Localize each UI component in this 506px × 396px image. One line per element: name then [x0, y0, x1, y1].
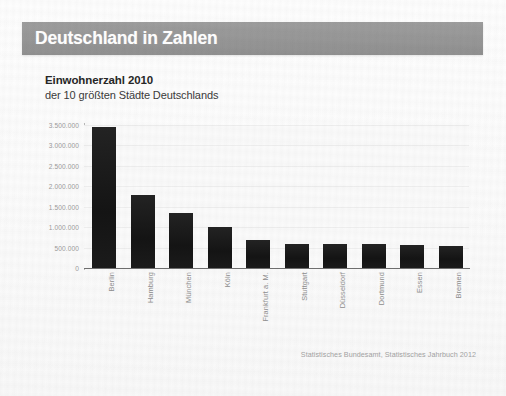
x-axis-tick-label: Dortmund [377, 272, 386, 305]
x-axis-tick-label: Köln [223, 272, 232, 287]
x-axis-tick-label: Bremen [454, 272, 463, 298]
bar [362, 244, 386, 268]
y-axis-tick-label: 3.500.000 [49, 122, 79, 129]
y-axis-tick-label: 2.500.000 [49, 162, 79, 169]
page-title: Deutschland in Zahlen [35, 28, 218, 49]
y-axis-tick-label: 3.000.000 [49, 142, 79, 149]
bar [169, 213, 193, 268]
y-axis-tick-label: 1.500.000 [49, 203, 79, 210]
chart-subtitle: der 10 größten Städte Deutschlands [45, 89, 218, 101]
gridline [84, 125, 469, 126]
x-axis-tick-label: Berlin [107, 272, 116, 292]
slide-page: Deutschland in Zahlen Einwohnerzahl 2010… [0, 0, 506, 396]
chart-title: Einwohnerzahl 2010 [45, 74, 153, 86]
x-axis-tick-label: München [184, 272, 193, 303]
bar [131, 195, 155, 268]
x-axis-tick-label: Frankfurt a. M. [261, 272, 270, 322]
bar [400, 245, 424, 268]
gridline [84, 166, 469, 167]
x-axis-line [84, 268, 470, 269]
y-axis-tick-label: 1.000.000 [49, 224, 79, 231]
x-axis-tick-label: Stuttgart [300, 272, 309, 301]
x-axis-tick-label: Düsseldorf [338, 272, 347, 308]
y-axis-tick-label: 500.000 [54, 244, 79, 251]
bar [439, 246, 463, 268]
gridline [84, 145, 469, 146]
bar [246, 240, 270, 268]
bar [323, 244, 347, 268]
source-note: Statistisches Bundesamt, Statistisches J… [301, 350, 476, 359]
bar [92, 127, 116, 268]
bar [285, 244, 309, 269]
x-axis-tick-label: Hamburg [146, 272, 155, 303]
header-band: Deutschland in Zahlen [22, 22, 483, 55]
bar-chart: 3.500.0003.000.0002.500.0002.000.0001.50… [22, 112, 477, 282]
bar [208, 227, 232, 268]
gridline [84, 186, 469, 187]
x-axis-tick-label: Essen [415, 272, 424, 293]
y-axis-tick-label: 0 [75, 265, 79, 272]
plot-area: 3.500.0003.000.0002.500.0002.000.0001.50… [84, 125, 469, 268]
y-axis-tick-label: 2.000.000 [49, 183, 79, 190]
